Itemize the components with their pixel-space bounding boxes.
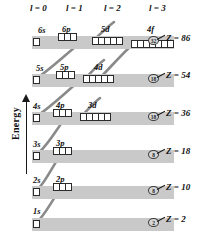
orbital-boxes-6p xyxy=(58,33,77,41)
column-header-l1: l = 1 xyxy=(66,3,83,13)
energy-axis-label: Energy xyxy=(10,98,21,150)
orbital-label-3p: 3p xyxy=(56,138,65,148)
orbital-boxes-2p xyxy=(53,183,72,191)
column-header-l0: l = 0 xyxy=(30,3,47,13)
orbital-box xyxy=(33,152,40,160)
orbital-box xyxy=(116,37,123,45)
orbital-boxes-5d xyxy=(92,37,123,45)
orbital-box xyxy=(65,109,72,117)
orbital-label-6s: 6s xyxy=(38,25,46,35)
orbital-boxes-3s xyxy=(33,152,40,160)
orbital-box xyxy=(65,183,72,191)
orbital-boxes-3d xyxy=(80,113,111,121)
energy-axis: Energy xyxy=(2,96,28,178)
orbital-label-3s: 3s xyxy=(33,139,41,149)
orbital-label-1s: 1s xyxy=(33,206,41,216)
orbital-box xyxy=(107,75,114,83)
orbital-label-5d: 5d xyxy=(101,24,110,34)
atomic-number-label-shell-n1: Z = 2 xyxy=(166,214,186,224)
column-header-l2: l = 2 xyxy=(104,3,121,13)
orbital-label-4d: 4d xyxy=(94,62,103,72)
atomic-number-label-shell-n4: Z = 36 xyxy=(166,108,190,118)
orbital-label-2p: 2p xyxy=(56,174,65,184)
orbital-box xyxy=(33,220,40,228)
atomic-number-label-shell-n3: Z = 18 xyxy=(166,146,190,156)
orbital-boxes-4s xyxy=(33,114,40,122)
column-header-l3: l = 3 xyxy=(149,3,166,13)
orbital-label-5s: 5s xyxy=(36,63,44,73)
orbital-box xyxy=(33,188,40,196)
aufbau-diagram: Energy l = 0l = 1l = 2l = 36s6p5d4f32Z =… xyxy=(0,0,207,236)
orbital-boxes-5p xyxy=(56,71,75,79)
orbital-boxes-4d xyxy=(83,75,114,83)
orbital-label-4p: 4p xyxy=(56,100,65,110)
orbital-boxes-4p xyxy=(53,109,72,117)
orbital-boxes-1s xyxy=(33,220,40,228)
atomic-number-label-shell-n2: Z = 10 xyxy=(166,182,190,192)
orbital-box xyxy=(104,113,111,121)
orbital-label-4s: 4s xyxy=(33,101,41,111)
orbital-box xyxy=(33,38,40,46)
orbital-label-3d: 3d xyxy=(88,100,97,110)
atomic-number-label-shell-n6: Z = 86 xyxy=(166,33,190,43)
orbital-boxes-3p xyxy=(53,147,72,155)
orbital-label-6p: 6p xyxy=(62,24,71,34)
atomic-number-label-shell-n5: Z = 54 xyxy=(166,70,190,80)
orbital-box xyxy=(68,71,75,79)
orbital-boxes-6s xyxy=(33,38,40,46)
orbital-box xyxy=(65,147,72,155)
orbital-boxes-5s xyxy=(33,76,40,84)
energy-axis-arrow-icon xyxy=(22,94,30,102)
orbital-box xyxy=(33,76,40,84)
orbital-box xyxy=(33,114,40,122)
orbital-label-4f: 4f xyxy=(147,24,154,34)
energy-axis-line xyxy=(26,100,27,174)
orbital-box xyxy=(70,33,77,41)
orbital-boxes-2s xyxy=(33,188,40,196)
orbital-label-5p: 5p xyxy=(60,62,69,72)
orbital-label-2s: 2s xyxy=(33,175,41,185)
